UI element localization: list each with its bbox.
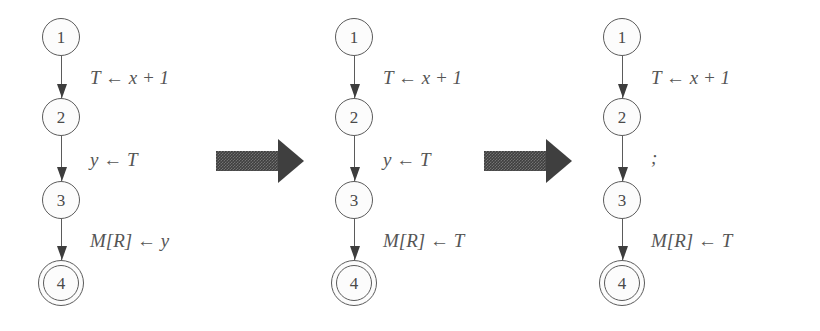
edge-arrowhead	[350, 246, 360, 260]
edge-arrowhead	[57, 246, 67, 260]
edge-arrowhead	[618, 246, 628, 260]
edge-label-2-to-3: y ← T	[90, 150, 138, 169]
edge-arrowhead	[57, 84, 67, 98]
edge-arrowhead	[350, 84, 360, 98]
edge-arrowhead	[618, 167, 628, 181]
cfg-node-label: 2	[350, 109, 359, 126]
cfg-node-label: 4	[618, 275, 627, 292]
cfg-node-2[interactable]: 2	[603, 98, 641, 136]
cfg-node-2[interactable]: 2	[335, 98, 373, 136]
arrow-head	[546, 139, 572, 183]
cfg-transformation-figure: 1 2 3 4 T ← x + 1 y ← T M[R] ← y	[0, 0, 820, 331]
cfg-node-label: 2	[618, 109, 627, 126]
edge-label-1-to-2: T ← x + 1	[90, 68, 169, 87]
cfg-node-label: 1	[57, 29, 66, 46]
cfg-node-4-accepting[interactable]: 4	[38, 260, 84, 306]
transition-arrow-1	[216, 139, 304, 183]
transition-arrow-2	[484, 139, 572, 183]
cfg-node-2[interactable]: 2	[42, 98, 80, 136]
cfg-node-label: 3	[57, 192, 66, 209]
edge-arrowhead	[618, 84, 628, 98]
cfg-node-3[interactable]: 3	[42, 181, 80, 219]
edge-label-1-to-2: T ← x + 1	[383, 68, 462, 87]
edge-arrowhead	[350, 167, 360, 181]
cfg-node-1[interactable]: 1	[42, 18, 80, 56]
arrow-head	[278, 139, 304, 183]
arrow-shaft	[484, 151, 546, 171]
arrow-shaft	[216, 151, 278, 171]
cfg-node-label: 4	[350, 275, 359, 292]
edge-label-2-to-3: ;	[651, 148, 657, 167]
cfg-node-3[interactable]: 3	[603, 181, 641, 219]
cfg-node-label: 1	[618, 29, 627, 46]
cfg-node-label: 4	[57, 275, 66, 292]
cfg-node-1[interactable]: 1	[335, 18, 373, 56]
cfg-node-1[interactable]: 1	[603, 18, 641, 56]
edge-label-3-to-4: M[R] ← T	[383, 231, 464, 250]
cfg-node-label: 2	[57, 109, 66, 126]
cfg-node-label: 3	[350, 192, 359, 209]
cfg-node-label: 1	[350, 29, 359, 46]
cfg-node-3[interactable]: 3	[335, 181, 373, 219]
edge-label-3-to-4: M[R] ← T	[651, 231, 732, 250]
edge-label-1-to-2: T ← x + 1	[651, 68, 730, 87]
edge-label-2-to-3: y ← T	[383, 150, 431, 169]
edge-arrowhead	[57, 167, 67, 181]
edge-label-3-to-4: M[R] ← y	[90, 231, 169, 250]
cfg-node-label: 3	[618, 192, 627, 209]
cfg-node-4-accepting[interactable]: 4	[599, 260, 645, 306]
cfg-node-4-accepting[interactable]: 4	[331, 260, 377, 306]
